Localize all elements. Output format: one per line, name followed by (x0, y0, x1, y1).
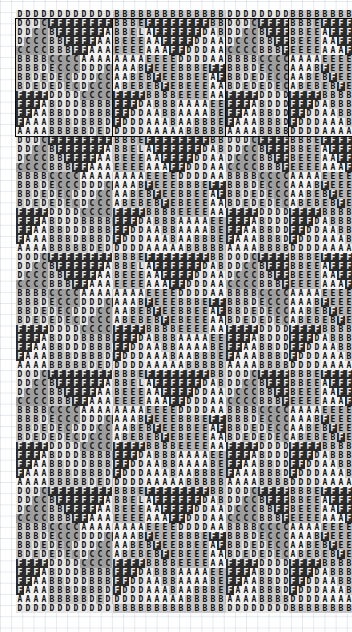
grid-cell: B (48, 505, 56, 514)
grid-cell: A (289, 55, 297, 64)
grid-cell: B (24, 73, 32, 82)
grid-cell: C (80, 325, 88, 334)
grid-cell: B (266, 244, 274, 253)
grid-cell: A (234, 352, 242, 361)
grid-cell: C (64, 406, 72, 415)
grid-cell: D (32, 307, 40, 316)
grid-cell: A (209, 496, 217, 505)
grid-cell: F (289, 118, 297, 127)
grid-cell: B (242, 181, 250, 190)
grid-cell: E (169, 550, 177, 559)
group-2-row-1: BBBEFFFFFFFFBBBB (113, 487, 241, 496)
grid-cell: A (153, 514, 161, 523)
grid-cell: E (305, 496, 313, 505)
grid-cell: E (153, 181, 161, 190)
grid-cell: D (48, 604, 56, 613)
grid-cell: E (289, 46, 297, 55)
grid-cell: D (266, 325, 274, 334)
grid-cell: F (297, 559, 305, 568)
grid-cell: B (258, 514, 266, 523)
grid-cell: B (337, 10, 345, 19)
grid-cell: E (169, 424, 177, 433)
grid-cell: D (234, 28, 242, 37)
group-4-row-12: FDDDAAAB (289, 235, 352, 244)
group-2-row-1: BBBEFFFFFFFFBBBB (113, 253, 241, 262)
grid-cell: B (56, 127, 64, 136)
grid-cell: B (201, 469, 209, 478)
grid-cell: F (24, 568, 32, 577)
grid-cell: F (305, 325, 313, 334)
grid-cell: E (258, 199, 266, 208)
grid-cell: B (193, 181, 201, 190)
grid-cell: F (161, 388, 169, 397)
grid-cell: E (129, 28, 137, 37)
grid-cell: F (234, 100, 242, 109)
grid-cell: C (96, 307, 104, 316)
grid-cell: E (313, 541, 321, 550)
grid-cell: A (337, 118, 345, 127)
grid-cell: D (48, 442, 56, 451)
grid-cell: A (96, 154, 104, 163)
grid-cell: D (56, 91, 64, 100)
group-3-row-12: FAAABBBD (226, 586, 290, 595)
grid-cell: F (113, 577, 121, 586)
grid-cell: D (266, 10, 274, 19)
grid-cell: A (209, 559, 217, 568)
grid-cell: A (242, 460, 250, 469)
grid-cell: D (129, 478, 137, 487)
grid-cell: D (88, 307, 96, 316)
grid-cell: F (48, 19, 56, 28)
grid-cell: E (217, 469, 225, 478)
grid-cell: B (64, 361, 72, 370)
grid-cell: B (209, 244, 217, 253)
grid-cell: B (16, 190, 24, 199)
grid-cell: B (121, 487, 129, 496)
grid-cell: A (177, 235, 185, 244)
grid-cell: D (40, 433, 48, 442)
grid-cell: A (250, 478, 258, 487)
grid-cell: E (321, 199, 329, 208)
grid-cell: C (24, 163, 32, 172)
grid-cell: B (321, 73, 329, 82)
grid-cell: D (16, 37, 24, 46)
grid-cell: B (185, 190, 193, 199)
grid-cell: D (242, 190, 250, 199)
grid-cell: D (129, 469, 137, 478)
grid-cell: A (104, 46, 112, 55)
grid-cell: D (305, 118, 313, 127)
grid-cell: F (161, 370, 169, 379)
grid-cell: B (24, 55, 32, 64)
grid-cell: E (201, 64, 209, 73)
grid-cell: C (32, 262, 40, 271)
grid-cell: A (329, 361, 337, 370)
grid-cell: B (56, 280, 64, 289)
grid-cell: B (274, 163, 282, 172)
grid-cell: A (185, 460, 193, 469)
grid-cell: A (242, 352, 250, 361)
grid-cell: A (337, 235, 345, 244)
grid-cell: A (297, 307, 305, 316)
grid-cell: D (32, 10, 40, 19)
grid-cell: D (16, 604, 24, 613)
grid-cell: E (217, 586, 225, 595)
grid-cell: D (64, 325, 72, 334)
grid-cell: C (48, 172, 56, 181)
grid-cell: E (145, 316, 153, 325)
grid-cell: F (169, 379, 177, 388)
grid-cell: F (337, 370, 345, 379)
grid-cell: D (274, 460, 282, 469)
grid-cell: E (258, 181, 266, 190)
grid-cell: D (289, 595, 297, 604)
grid-cell: F (305, 100, 313, 109)
grid-cell: A (121, 424, 129, 433)
grid-cell: F (185, 19, 193, 28)
group-3-row-8: BDEDEDEC (226, 199, 290, 208)
grid-cell: A (145, 568, 153, 577)
group-3-row-3: DCCCBBFF (226, 271, 290, 280)
grid-cell: F (226, 568, 234, 577)
grid-cell: F (48, 370, 56, 379)
grid-cell: B (96, 100, 104, 109)
grid-cell: D (88, 10, 96, 19)
grid-cell: A (305, 289, 313, 298)
grid-cell: C (40, 280, 48, 289)
